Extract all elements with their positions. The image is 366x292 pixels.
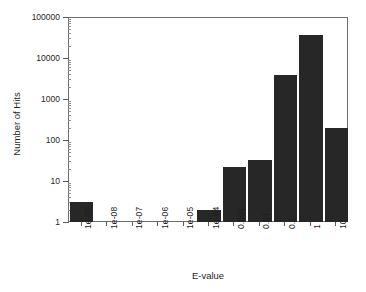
x-axis-major-tick — [132, 222, 133, 226]
x-axis-major-tick — [233, 222, 234, 226]
x-axis-tick-label: 1e-09 — [84, 207, 93, 229]
x-axis-major-tick — [81, 222, 82, 226]
x-axis-major-tick — [259, 222, 260, 226]
x-axis-major-tick — [208, 222, 209, 226]
x-axis-tick-label: 1 — [313, 224, 322, 229]
x-axis-major-tick — [106, 222, 107, 226]
x-axis-title: E-value — [68, 271, 348, 281]
x-axis-major-tick — [183, 222, 184, 226]
x-axis-tick-label: 1e-04 — [212, 207, 221, 229]
x-axis-major-tick — [157, 222, 158, 226]
y-axis-title: Number of Hits — [12, 64, 22, 184]
x-axis-tick-label: 0.001 — [237, 207, 246, 229]
bar-chart: 100000100001000100101 1e-091e-081e-071e-… — [0, 0, 366, 292]
x-axis-tick-label: 1e-05 — [186, 207, 195, 229]
x-axis-major-tick — [310, 222, 311, 226]
x-axis-major-tick — [284, 222, 285, 226]
x-axis: 1e-091e-081e-071e-061e-051e-040.0010.010… — [0, 0, 366, 292]
x-axis-tick-label: 1e-06 — [161, 207, 170, 229]
x-axis-tick-label: 1e-08 — [110, 207, 119, 229]
x-axis-major-tick — [335, 222, 336, 226]
x-axis-tick-label: 1e-07 — [135, 207, 144, 229]
x-axis-tick-label: 0.1 — [288, 217, 297, 229]
x-axis-tick-label: 0.01 — [262, 212, 271, 229]
x-axis-tick-label: 10 — [339, 219, 348, 229]
